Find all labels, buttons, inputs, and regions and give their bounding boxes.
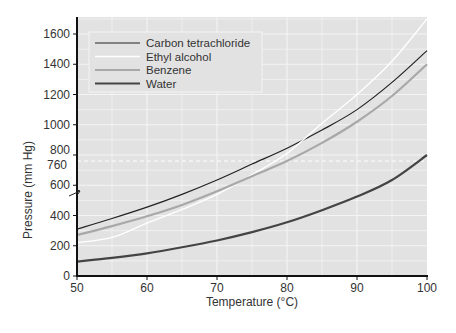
legend-label: Ethyl alcohol — [146, 51, 211, 63]
legend-label: Benzene — [146, 64, 191, 76]
y-tick-label: 1200 — [43, 88, 70, 102]
y-tick-label: 800 — [50, 143, 70, 157]
y-tick-label: 760 — [47, 158, 67, 172]
y-tick-label: 1000 — [43, 118, 70, 132]
x-axis-label: Temperature (°C) — [206, 295, 298, 309]
x-tick-label: 100 — [417, 281, 437, 295]
y-tick-label: 1600 — [43, 27, 70, 41]
y-axis-ticks: 02004006007608001000120014001600 — [43, 27, 77, 283]
x-tick-label: 60 — [140, 281, 154, 295]
x-tick-label: 90 — [350, 281, 364, 295]
x-tick-label: 50 — [70, 281, 84, 295]
legend: Carbon tetrachlorideEthyl alcoholBenzene… — [89, 32, 262, 92]
x-axis-ticks: 5060708090100 — [70, 276, 437, 295]
y-tick-label: 1400 — [43, 57, 70, 71]
vapor-pressure-chart: Carbon tetrachlorideEthyl alcoholBenzene… — [0, 0, 456, 333]
legend-label: Carbon tetrachloride — [146, 37, 250, 49]
y-tick-label: 400 — [50, 209, 70, 223]
y-axis-label: Pressure (mm Hg) — [21, 141, 35, 239]
x-tick-label: 70 — [210, 281, 224, 295]
y-tick-label: 600 — [50, 178, 70, 192]
y-tick-label: 200 — [50, 239, 70, 253]
y-tick-label: 0 — [63, 269, 70, 283]
legend-label: Water — [146, 78, 176, 90]
x-tick-label: 80 — [280, 281, 294, 295]
